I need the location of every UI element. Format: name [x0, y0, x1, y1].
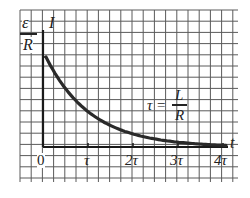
x-tick-label-2: 2τ [125, 153, 138, 168]
tau-annotation-denominator: R [175, 108, 184, 123]
y-max-label-fraction-bar [20, 33, 37, 35]
x-axis-label: t [230, 135, 234, 151]
tau-annotation-lhs: τ = [147, 98, 166, 113]
x-tick-label-1: τ [84, 153, 89, 168]
y-axis-label: I [49, 15, 54, 31]
tau-annotation-numerator: L [175, 88, 183, 103]
tau-annotation-fraction-bar [172, 104, 187, 106]
x-tick-label-4: 4τ [214, 153, 227, 168]
y-max-label-denominator: R [23, 37, 33, 53]
x-tick-label-3: 3τ [170, 153, 183, 168]
x-tick-label-0: 0 [37, 153, 45, 168]
y-max-label-numerator: ε [22, 14, 29, 31]
chart-canvas [0, 0, 250, 198]
